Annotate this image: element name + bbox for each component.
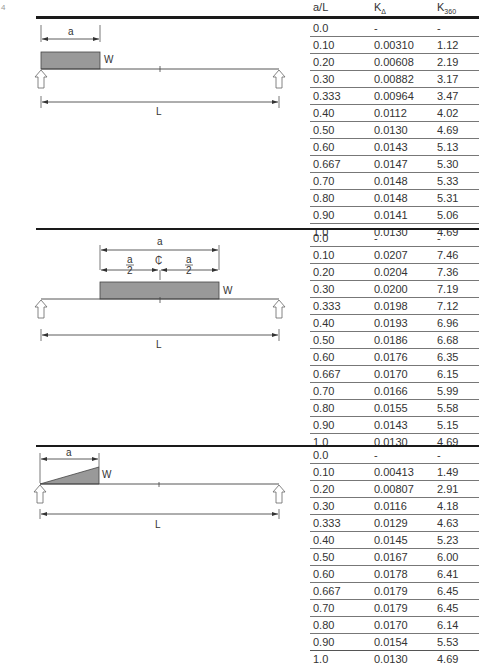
table-row: 0.100.003101.12 [310, 37, 479, 54]
table-row: 0.700.01485.33 [310, 173, 479, 190]
k360-cell: - [437, 230, 441, 246]
page-corner-mark: 4 [1, 3, 5, 12]
k-delta-cell: 0.00413 [374, 464, 414, 480]
k360-cell: 2.19 [437, 54, 458, 70]
k360-cell: 2.91 [437, 481, 458, 497]
table-row: 0.400.01455.23 [310, 532, 479, 549]
k360-cell: 6.45 [437, 583, 458, 599]
table-row: 0.200.02047.36 [310, 264, 479, 281]
k-delta-cell: 0.0193 [374, 315, 408, 331]
k360-cell: 6.00 [437, 549, 458, 565]
k360-cell: 4.69 [437, 651, 458, 663]
ratio-cell: 0.0 [313, 20, 328, 36]
ratio-cell: 0.0 [313, 447, 328, 463]
ratio-cell: 0.90 [313, 634, 334, 650]
k360-cell: 7.12 [437, 298, 458, 314]
k360-cell: 5.31 [437, 190, 458, 206]
table-row: 0.0-- [310, 447, 479, 464]
ratio-cell: 1.0 [313, 651, 328, 663]
table-row: 0.500.01304.69 [310, 122, 479, 139]
ratio-cell: 0.60 [313, 139, 334, 155]
ratio-cell: 0.50 [313, 122, 334, 138]
ratio-cell: 0.30 [313, 498, 334, 514]
svg-text:W: W [223, 285, 233, 296]
k360-cell: 6.41 [437, 566, 458, 582]
k-delta-cell: 0.0166 [374, 383, 408, 399]
table-row: 0.400.01124.02 [310, 105, 479, 122]
ratio-cell: 0.70 [313, 383, 334, 399]
table-row: 0.600.01435.13 [310, 139, 479, 156]
table-row: 0.6670.01706.15 [310, 366, 479, 383]
k360-cell: 5.53 [437, 634, 458, 650]
table-row: 0.800.01555.58 [310, 400, 479, 417]
ratio-cell: 0.10 [313, 37, 334, 53]
k360-cell: 5.30 [437, 156, 458, 172]
coefficient-table-2: 0.0--0.100.02077.460.200.02047.360.300.0… [310, 230, 479, 450]
svg-text:a: a [186, 254, 192, 265]
coefficient-table-3: 0.0--0.100.004131.490.200.008072.910.300… [310, 447, 479, 663]
svg-text:L: L [156, 339, 162, 350]
table-row: 0.600.01786.41 [310, 566, 479, 583]
ratio-cell: 0.0 [313, 230, 328, 246]
table-row: 0.3330.01987.12 [310, 298, 479, 315]
table-row: 0.0-- [310, 20, 479, 37]
table-row: 0.0-- [310, 230, 479, 247]
ratio-cell: 0.30 [313, 281, 334, 297]
k360-cell: 4.69 [437, 122, 458, 138]
table-row: 0.6670.01475.30 [310, 156, 479, 173]
beam-diagram-triangular: a W L [0, 447, 300, 647]
k-delta-cell: 0.0148 [374, 173, 408, 189]
svg-text:2: 2 [127, 265, 133, 276]
ratio-cell: 0.40 [313, 105, 334, 121]
k360-cell: 6.96 [437, 315, 458, 331]
ratio-cell: 0.40 [313, 532, 334, 548]
k-delta-cell: 0.00310 [374, 37, 414, 53]
table-row: 0.700.01665.99 [310, 383, 479, 400]
k-delta-cell: 0.0155 [374, 400, 408, 416]
k-delta-cell: 0.0130 [374, 122, 408, 138]
k-delta-cell: 0.0141 [374, 207, 408, 223]
k360-cell: 7.36 [437, 264, 458, 280]
table-row: 0.6670.01796.45 [310, 583, 479, 600]
k-delta-cell: 0.0129 [374, 515, 408, 531]
k360-cell: 7.19 [437, 281, 458, 297]
ratio-cell: 0.20 [313, 54, 334, 70]
svg-text:L: L [156, 106, 162, 117]
ratio-cell: 0.60 [313, 566, 334, 582]
ratio-cell: 0.667 [313, 156, 341, 172]
ratio-cell: 0.70 [313, 600, 334, 616]
table-row: 0.900.01435.15 [310, 417, 479, 434]
table-row: 0.400.01936.96 [310, 315, 479, 332]
ratio-cell: 0.333 [313, 515, 341, 531]
k-delta-cell: 0.0204 [374, 264, 408, 280]
k-delta-cell: - [374, 230, 378, 246]
k-delta-cell: 0.0145 [374, 532, 408, 548]
table-row: 0.600.01766.35 [310, 349, 479, 366]
k-delta-cell: 0.0200 [374, 281, 408, 297]
k360-cell: - [437, 447, 441, 463]
table-row: 0.900.01545.53 [310, 634, 479, 651]
k360-cell: 6.68 [437, 332, 458, 348]
ratio-cell: 0.80 [313, 400, 334, 416]
svg-text:a: a [68, 26, 74, 37]
k-delta-cell: 0.0170 [374, 366, 408, 382]
k-delta-cell: 0.00608 [374, 54, 414, 70]
k360-cell: 1.49 [437, 464, 458, 480]
k360-cell: 6.15 [437, 366, 458, 382]
ratio-cell: 0.333 [313, 88, 341, 104]
table-row: 0.300.02007.19 [310, 281, 479, 298]
k-delta-cell: 0.0143 [374, 139, 408, 155]
k-delta-cell: 0.0147 [374, 156, 408, 172]
bottom-rule [310, 650, 479, 651]
table-row: 0.100.02077.46 [310, 247, 479, 264]
k360-cell: 7.46 [437, 247, 458, 263]
k-delta-cell: 0.0176 [374, 349, 408, 365]
table-row: 0.900.01415.06 [310, 207, 479, 224]
table-row: 0.3330.009643.47 [310, 88, 479, 105]
svg-text:W: W [102, 469, 112, 480]
ratio-cell: 0.80 [313, 617, 334, 633]
table-row: 0.800.01706.14 [310, 617, 479, 634]
k360-cell: 5.58 [437, 400, 458, 416]
ratio-cell: 0.70 [313, 173, 334, 189]
ratio-cell: 0.90 [313, 417, 334, 433]
